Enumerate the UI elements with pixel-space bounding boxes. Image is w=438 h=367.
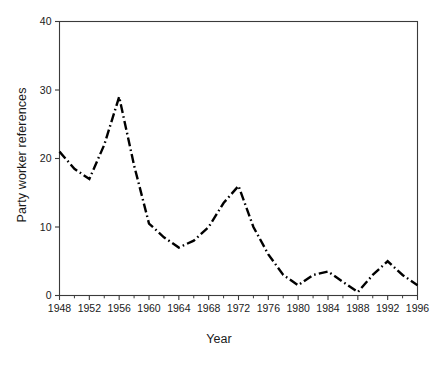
- x-axis-tick-label: 1976: [257, 302, 281, 314]
- x-axis-tick-label: 1964: [167, 302, 191, 314]
- x-axis-tick-label: 1972: [227, 302, 251, 314]
- plot-frame: [60, 22, 418, 296]
- x-axis-tick-label: 1992: [376, 302, 400, 314]
- y-axis-label-container: Party worker references: [8, 0, 36, 310]
- x-axis-tick-label: 1984: [316, 302, 340, 314]
- x-axis-tick-label: 1948: [48, 302, 72, 314]
- chart-figure: Party worker references 1948195219561960…: [0, 0, 438, 367]
- y-axis-tick-label: 0: [46, 289, 52, 301]
- y-axis-tick-label: 10: [40, 221, 52, 233]
- x-axis-tick-label: 1952: [78, 302, 102, 314]
- x-axis-tick-label: 1980: [286, 302, 310, 314]
- y-axis-tick-label: 30: [40, 84, 52, 96]
- x-axis-tick-label: 1956: [107, 302, 131, 314]
- y-axis-label: Party worker references: [15, 88, 29, 223]
- y-axis-tick-label: 20: [40, 152, 52, 164]
- data-series-line: [60, 97, 418, 292]
- x-axis-tick-label: 1996: [406, 302, 430, 314]
- x-axis-tick-label: 1968: [197, 302, 221, 314]
- y-axis-tick-label: 40: [40, 15, 52, 27]
- x-axis-tick-label: 1988: [346, 302, 370, 314]
- line-chart-svg: 1948195219561960196419681972197619801984…: [0, 0, 438, 367]
- x-axis-tick-label: 1960: [137, 302, 161, 314]
- x-axis-label: Year: [0, 332, 438, 346]
